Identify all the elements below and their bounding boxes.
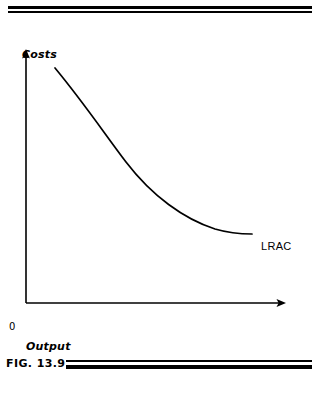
y-axis-title: Costs [22, 48, 57, 61]
lrac-curve-label: LRAC [261, 240, 292, 252]
bottom-rule-thick-line [66, 365, 312, 369]
bottom-double-rule [66, 360, 312, 369]
plot-area: Costs Output 0 LRAC [0, 20, 322, 320]
figure-container: Costs Output 0 LRAC FIG. 13.9 [0, 0, 322, 393]
lrac-chart-svg [0, 20, 322, 320]
figure-caption: FIG. 13.9 [6, 357, 65, 370]
bottom-rule-thin-line [66, 360, 312, 362]
origin-label: 0 [9, 322, 15, 332]
x-axis-title: Output [26, 340, 71, 353]
lrac-curve [55, 68, 252, 234]
top-double-rule [8, 6, 312, 14]
top-rule-thick-line [8, 6, 312, 9]
top-rule-thin-line [8, 11, 312, 13]
